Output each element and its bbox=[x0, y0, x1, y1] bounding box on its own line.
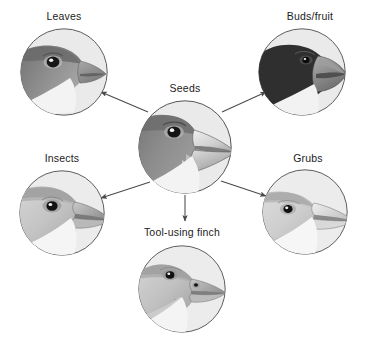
circle-tool-using-finch bbox=[138, 245, 226, 333]
label-leaves: Leaves bbox=[0, 10, 144, 22]
label-insects: Insects bbox=[0, 152, 142, 164]
finch-beak-radiation-diagram: Leaves bbox=[0, 0, 365, 346]
circle-seeds bbox=[138, 100, 232, 194]
circle-buds-fruit bbox=[258, 28, 346, 116]
circle-grubs bbox=[262, 169, 348, 255]
label-seeds: Seeds bbox=[105, 82, 265, 94]
label-buds-fruit: Buds/fruit bbox=[230, 10, 365, 22]
label-tool-using-finch: Tool-using finch bbox=[102, 226, 262, 238]
label-grubs: Grubs bbox=[228, 152, 365, 164]
circle-insects bbox=[19, 170, 105, 256]
circle-leaves bbox=[20, 28, 108, 116]
